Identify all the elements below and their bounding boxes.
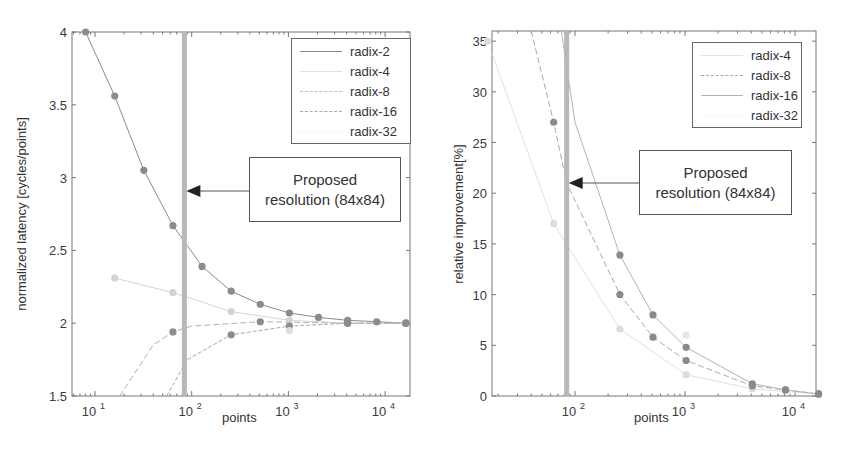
legend-item: radix-4	[693, 45, 801, 65]
data-point	[373, 318, 380, 325]
x-tick-exponent: 1	[100, 401, 105, 411]
data-point	[82, 28, 89, 35]
data-point	[228, 331, 235, 338]
legend-label: radix-4	[350, 64, 390, 79]
legend-swatch	[300, 111, 342, 112]
legend-item: radix-4	[292, 61, 410, 81]
y-tick-label: 20	[473, 186, 487, 201]
y-tick-label: 25	[473, 136, 487, 151]
figure: 1.522.533.541011021031040510152025303510…	[0, 0, 841, 461]
data-point	[782, 386, 789, 393]
y-tick-label: 2	[60, 316, 67, 331]
x-tick-exponent: 3	[690, 401, 695, 411]
legend-item: radix-2	[292, 41, 410, 61]
annotation-line1: Proposed	[640, 163, 791, 183]
series-line-radix-16	[167, 323, 406, 396]
data-point	[550, 220, 557, 227]
series-line-radix-8	[120, 322, 406, 396]
data-point	[344, 320, 351, 327]
legend-label: radix-32	[751, 108, 798, 123]
legend-swatch	[300, 51, 342, 52]
y-tick-label: 10	[473, 288, 487, 303]
y-tick-label: 4	[60, 25, 67, 40]
data-point	[169, 222, 176, 229]
legend-swatch	[300, 131, 342, 132]
data-point	[111, 92, 118, 99]
x-tick-exponent: 3	[293, 401, 298, 411]
x-tick-label: 10	[782, 404, 796, 419]
legend-swatch	[701, 75, 743, 76]
legend-label: radix-2	[350, 44, 390, 59]
data-point	[315, 314, 322, 321]
data-point	[286, 327, 293, 334]
data-point	[111, 274, 118, 281]
data-point	[198, 263, 205, 270]
data-point	[616, 325, 623, 332]
legend-right: radix-4 radix-8 radix-16 radix-32	[692, 42, 802, 128]
legend-swatch	[701, 115, 743, 116]
legend-label: radix-4	[751, 48, 791, 63]
legend-label: radix-32	[350, 124, 397, 139]
legend-swatch	[701, 95, 743, 96]
proposed-resolution-bar	[182, 32, 187, 396]
x-axis-label-left: points	[222, 410, 257, 425]
y-tick-label: 0	[480, 389, 487, 404]
legend-item: radix-32	[693, 105, 801, 125]
legend-label: radix-16	[350, 104, 397, 119]
arrow-head-icon	[186, 185, 200, 197]
y-tick-label: 30	[473, 85, 487, 100]
proposed-resolution-bar	[564, 31, 569, 396]
y-tick-label: 3	[60, 171, 67, 186]
data-point	[257, 301, 264, 308]
data-point	[683, 344, 690, 351]
legend-label: radix-8	[751, 68, 791, 83]
data-point	[616, 291, 623, 298]
legend-label: radix-16	[751, 88, 798, 103]
legend-swatch	[300, 91, 342, 92]
legend-swatch	[300, 71, 342, 72]
data-point	[169, 289, 176, 296]
data-point	[649, 311, 656, 318]
data-point	[550, 119, 557, 126]
x-tick-exponent: 4	[800, 401, 805, 411]
data-point	[683, 371, 690, 378]
legend-item: radix-8	[292, 81, 410, 101]
series-line-radix-4	[115, 278, 406, 323]
x-tick-label: 10	[562, 404, 576, 419]
annotation-line2: resolution (84x84)	[250, 190, 400, 210]
legend-swatch	[701, 55, 743, 56]
annotation-line1: Proposed	[250, 170, 400, 190]
data-point	[228, 308, 235, 315]
data-point	[683, 332, 690, 339]
annotation-box-right: Proposed resolution (84x84)	[639, 150, 792, 215]
legend-item: radix-16	[693, 85, 801, 105]
y-tick-label: 5	[480, 338, 487, 353]
legend-label: radix-8	[350, 84, 390, 99]
x-axis-label-right: points	[634, 410, 669, 425]
data-point	[228, 288, 235, 295]
data-point	[749, 380, 756, 387]
legend-item: radix-8	[693, 65, 801, 85]
data-point	[683, 357, 690, 364]
data-point	[815, 390, 822, 397]
x-tick-label: 10	[275, 404, 289, 419]
y-tick-label: 15	[473, 237, 487, 252]
annotation-box-left: Proposed resolution (84x84)	[249, 157, 401, 222]
y-axis-label-right: relative improvement[%]	[451, 144, 466, 283]
data-point	[484, 38, 491, 45]
y-tick-label: 1.5	[49, 389, 67, 404]
data-point	[169, 328, 176, 335]
annotation-line2: resolution (84x84)	[640, 183, 791, 203]
x-tick-exponent: 2	[580, 401, 585, 411]
x-tick-label: 10	[178, 404, 192, 419]
y-tick-label: 3.5	[49, 98, 67, 113]
arrow-head-icon	[569, 177, 583, 189]
x-tick-label: 10	[372, 404, 386, 419]
legend-item: radix-32	[292, 121, 410, 141]
data-point	[649, 334, 656, 341]
x-tick-exponent: 4	[390, 401, 395, 411]
data-point	[257, 318, 264, 325]
data-point	[402, 320, 409, 327]
x-tick-label: 10	[672, 404, 686, 419]
data-point	[616, 251, 623, 258]
